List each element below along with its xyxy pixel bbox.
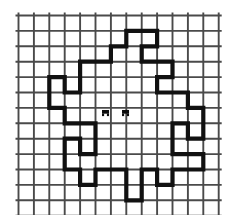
figure-canvas [0,0,226,215]
center-mark-left [102,110,109,116]
center-mark-leg-right [107,114,109,117]
center-mark-body [122,110,129,114]
center-mark-body [102,110,109,114]
center-mark-leg-right [127,114,129,117]
center-mark-leg-left [102,114,104,117]
grid-polygon-figure [0,0,226,215]
graph-paper-grid [16,13,222,216]
center-mark-leg-left [122,114,124,117]
center-marks [102,110,129,116]
